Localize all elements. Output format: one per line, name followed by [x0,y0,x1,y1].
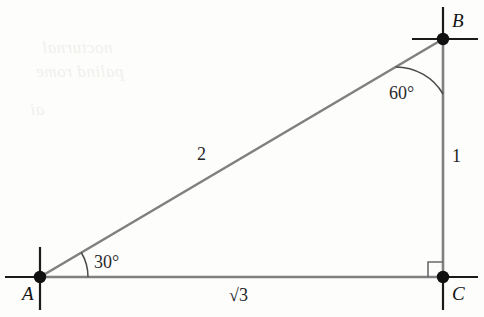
vertex-dot-a [34,271,46,283]
vertex-label-b: B [452,10,464,32]
side-label-hypotenuse-ab: 2 [197,144,206,165]
vertex-dot-c [437,271,449,283]
side-label-base-ac: √3 [229,285,248,306]
angle-arc-30-at-a [81,253,88,278]
vertex-label-c: C [452,283,465,305]
triangle-drawing-canvas [0,0,484,317]
geometry-figure: nocturnal palind rome ai A [0,0,484,317]
vertex-label-a: A [22,283,34,305]
angle-label-30-at-a: 30° [94,252,119,273]
side-label-bc: 1 [452,146,461,167]
angle-label-60-at-b: 60° [389,83,414,104]
vertex-dot-b [437,33,449,45]
triangle-side-ab-hypotenuse [40,39,443,277]
